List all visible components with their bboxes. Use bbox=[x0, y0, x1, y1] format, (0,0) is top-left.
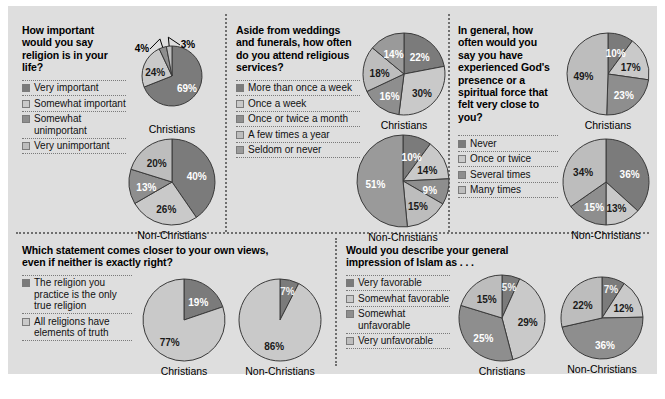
legend-swatch-icon bbox=[458, 171, 466, 179]
panel-gods-presence: In general, how often would you say you … bbox=[458, 24, 650, 229]
pie-svg: 40%26%13%20% bbox=[126, 136, 218, 228]
legend-item[interactable]: Many times bbox=[458, 182, 558, 199]
legend-item[interactable]: Somewhat unimportant bbox=[22, 111, 126, 138]
legend-item[interactable]: A few times a year bbox=[236, 126, 360, 142]
pie-slice-label: 17% bbox=[621, 62, 641, 73]
legend-label: Very unimportant bbox=[34, 140, 110, 152]
pie-slice-label: 12% bbox=[613, 303, 633, 314]
legend-label: Seldom or never bbox=[248, 144, 321, 156]
pie-chart-non-christians: 40%26%13%20% Non-Christians bbox=[126, 136, 218, 241]
legend-label: Once a week bbox=[248, 98, 306, 110]
legend-swatch-icon bbox=[236, 100, 244, 108]
pie-chart-non-christians: 10%14%9%15%51% Non-Christians bbox=[354, 132, 452, 243]
pie-callout-line bbox=[150, 39, 163, 49]
pie-slice-label: 22% bbox=[410, 52, 430, 63]
pie-slice-label: 15% bbox=[408, 201, 428, 212]
pie-slice-label: 14% bbox=[417, 165, 437, 176]
legend-item[interactable]: All religions have elements of truth bbox=[22, 313, 132, 341]
legend-label: Several times bbox=[470, 169, 531, 181]
pie-group-label: Christians bbox=[564, 119, 652, 131]
pie-slice-label: 36% bbox=[620, 169, 640, 180]
legend-label: Once or twice bbox=[470, 153, 531, 165]
legend-item[interactable]: Once or twice bbox=[458, 151, 558, 167]
legend-swatch-icon bbox=[236, 146, 244, 154]
legend-item[interactable]: Very unimportant bbox=[22, 138, 126, 155]
panel-legend: Never Once or twice Several times Many t… bbox=[458, 135, 558, 198]
legend-swatch-icon bbox=[346, 310, 354, 318]
legend-label: Somewhat unimportant bbox=[34, 113, 126, 136]
legend-label: Many times bbox=[470, 184, 521, 196]
pie-slice-label: 10% bbox=[606, 48, 626, 59]
panel-legend: More than once a week Once a week Once o… bbox=[236, 80, 360, 159]
panel-divider-vertical-3 bbox=[335, 238, 337, 366]
pie-chart-non-christians: 7%86% Non-Christians bbox=[236, 276, 324, 377]
pie-chart-christians: 5%29%25%15% Christians bbox=[456, 272, 548, 377]
pie-chart-christians: 10%17%23%49% Christians bbox=[564, 30, 652, 131]
legend-item[interactable]: Somewhat unfavorable bbox=[346, 306, 450, 333]
pie-group-label: Non-Christians bbox=[236, 365, 324, 377]
pie-chart-christians: 22%30%16%18%14% Christians bbox=[360, 30, 448, 131]
legend-label: A few times a year bbox=[248, 129, 330, 141]
pie-group-label: Non-Christians bbox=[354, 231, 452, 243]
legend-item[interactable]: Very unfavorable bbox=[346, 333, 450, 350]
pie-slice-label: 25% bbox=[473, 333, 493, 344]
panel-question: Which statement comes closer to your own… bbox=[22, 244, 284, 269]
legend-item[interactable]: Very favorable bbox=[346, 275, 450, 291]
legend-item[interactable]: Seldom or never bbox=[236, 142, 360, 159]
legend-label: Very favorable bbox=[358, 277, 422, 289]
pie-slice-label: 19% bbox=[188, 297, 208, 308]
legend-swatch-icon bbox=[22, 142, 30, 150]
legend-item[interactable]: Somewhat favorable bbox=[346, 290, 450, 306]
pie-svg: 10%17%23%49% bbox=[564, 30, 652, 118]
pie-slice-label: 13% bbox=[606, 203, 626, 214]
pie-svg: 22%30%16%18%14% bbox=[360, 30, 448, 118]
pie-slice-label: 51% bbox=[365, 179, 385, 190]
pie-slice-label: 16% bbox=[380, 91, 400, 102]
pie-slice-label: 4% bbox=[135, 43, 150, 54]
pie-slice-label: 34% bbox=[573, 167, 593, 178]
legend-label: More than once a week bbox=[248, 82, 352, 94]
pie-slice-label: 86% bbox=[264, 341, 284, 352]
pie-slice-label: 7% bbox=[280, 286, 295, 297]
legend-swatch-icon bbox=[236, 131, 244, 139]
legend-label: Once or twice a month bbox=[248, 113, 348, 125]
legend-swatch-icon bbox=[22, 84, 30, 92]
panel-legend: Very favorable Somewhat favorable Somewh… bbox=[346, 275, 450, 350]
pie-slice-label: 36% bbox=[595, 340, 615, 351]
pie-slice-label: 69% bbox=[177, 83, 197, 94]
panel-question: In general, how often would you say you … bbox=[458, 24, 554, 123]
pie-slice-label: 22% bbox=[573, 300, 593, 311]
legend-swatch-icon bbox=[346, 295, 354, 303]
pie-slice-label: 9% bbox=[423, 185, 438, 196]
legend-label: Somewhat important bbox=[34, 98, 126, 110]
infographic-board: How important would you say religion is … bbox=[8, 6, 657, 374]
legend-swatch-icon bbox=[346, 337, 354, 345]
pie-slice-label: 26% bbox=[156, 204, 176, 215]
legend-swatch-icon bbox=[236, 84, 244, 92]
legend-item[interactable]: Once or twice a month bbox=[236, 111, 360, 127]
legend-swatch-icon bbox=[458, 186, 466, 194]
pie-group-label: Christians bbox=[360, 119, 448, 131]
panel-attend-services: Aside from weddings and funerals, how of… bbox=[236, 24, 441, 229]
legend-item[interactable]: Never bbox=[458, 135, 558, 151]
legend-item[interactable]: Very important bbox=[22, 80, 126, 96]
legend-item[interactable]: Somewhat important bbox=[22, 95, 126, 111]
pie-slice-label: 24% bbox=[145, 67, 165, 78]
pie-slice-label: 3% bbox=[181, 39, 196, 50]
legend-swatch-icon bbox=[22, 318, 30, 326]
pie-chart-christians: 69%24%4%3% Christians bbox=[126, 30, 218, 135]
legend-label: Somewhat favorable bbox=[358, 293, 449, 305]
pie-chart-non-christians: 7%12%36%22% Non-Christians bbox=[558, 274, 646, 375]
pie-chart-non-christians: 36%13%15%34% Non-Christians bbox=[560, 136, 652, 241]
pie-slice-label: 77% bbox=[160, 337, 180, 348]
legend-item[interactable]: Several times bbox=[458, 166, 558, 182]
pie-slice-label: 20% bbox=[147, 158, 167, 169]
infographic-root: How important would you say religion is … bbox=[0, 0, 665, 399]
pie-svg: 7%86% bbox=[236, 276, 324, 364]
legend-item[interactable]: The religion you practice is the only tr… bbox=[22, 275, 132, 314]
legend-item[interactable]: Once a week bbox=[236, 95, 360, 111]
pie-slice-label: 49% bbox=[573, 71, 593, 82]
legend-item[interactable]: More than once a week bbox=[236, 80, 360, 96]
pie-slice-label: 18% bbox=[370, 68, 390, 79]
panel-question: Would you describe your general impressi… bbox=[346, 244, 536, 269]
